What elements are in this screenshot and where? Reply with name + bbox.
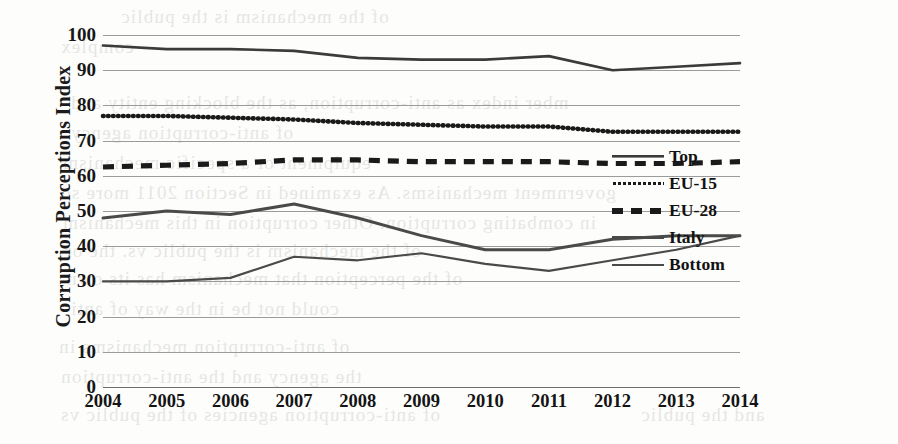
- y-axis-tick-label: 90: [77, 59, 96, 81]
- legend-label: Italy: [669, 227, 705, 248]
- dotted-line-swatch: [612, 178, 664, 190]
- y-axis-tick-label: 80: [77, 94, 96, 116]
- y-axis-tick-label: 10: [77, 341, 96, 363]
- corruption-perceptions-index-line-chart: Corruption Perceptions Index 01020304050…: [0, 0, 898, 444]
- solid-line-swatch: [612, 151, 664, 163]
- y-axis-tick-label: 70: [77, 130, 96, 152]
- chart-legend: Top EU-15 EU-28 Italy Bottom: [612, 143, 762, 278]
- x-axis-tick-label: 2010: [467, 391, 504, 412]
- x-axis-tick-label: 2007: [276, 391, 313, 412]
- gridline: [103, 387, 740, 388]
- legend-item-italy: Italy: [612, 224, 762, 251]
- x-axis-tick-label: 2012: [594, 391, 631, 412]
- series-line-top: [103, 46, 740, 71]
- legend-item-top: Top: [612, 143, 762, 170]
- legend-label: Bottom: [669, 254, 725, 275]
- legend-label: EU-15: [669, 173, 717, 194]
- dashed-line-swatch: [612, 205, 664, 217]
- x-axis-tick-label: 2004: [85, 391, 122, 412]
- x-axis-tick-label: 2008: [339, 391, 376, 412]
- legend-item-eu-15: EU-15: [612, 170, 762, 197]
- x-axis-tick-label: 2005: [148, 391, 185, 412]
- series-line-eu-15: [103, 116, 740, 132]
- thin-line-swatch: [612, 259, 664, 271]
- x-axis-tick-label: 2006: [212, 391, 249, 412]
- x-axis-tick-label: 2011: [531, 391, 567, 412]
- x-axis-tick-label: 2013: [658, 391, 695, 412]
- y-axis-tick-label: 20: [77, 306, 96, 328]
- x-axis-tick-label: 2009: [403, 391, 440, 412]
- legend-item-bottom: Bottom: [612, 251, 762, 278]
- y-axis-title: Corruption Perceptions Index: [52, 27, 75, 367]
- y-axis-tick-label: 100: [68, 24, 97, 46]
- y-axis-tick-label: 40: [77, 235, 96, 257]
- legend-label: Top: [669, 146, 698, 167]
- x-axis-tick-label: 2014: [722, 391, 759, 412]
- y-axis-tick-label: 50: [77, 200, 96, 222]
- y-axis-tick-label: 30: [77, 270, 96, 292]
- y-axis-tick-label: 60: [77, 165, 96, 187]
- legend-item-eu-28: EU-28: [612, 197, 762, 224]
- legend-label: EU-28: [669, 200, 717, 221]
- thick-line-swatch: [612, 232, 664, 244]
